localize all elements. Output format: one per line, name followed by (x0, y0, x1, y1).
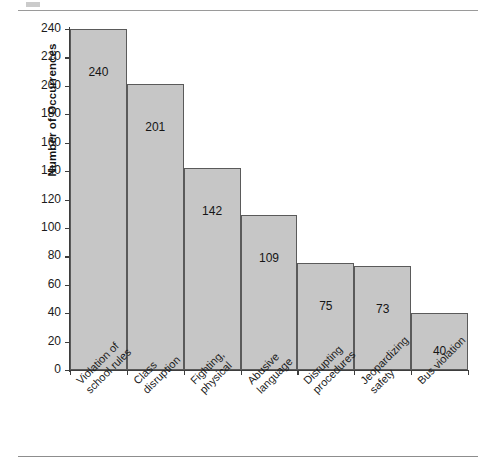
bar-value-label: 73 (354, 302, 411, 316)
bar-value-label: 142 (184, 204, 241, 218)
y-tick-mark (65, 313, 70, 314)
x-tick-mark (411, 370, 412, 375)
x-tick-mark (297, 370, 298, 375)
y-tick-mark (65, 370, 70, 371)
x-tick-mark (70, 370, 71, 375)
y-tick-label: 60 (48, 277, 61, 291)
bar (70, 29, 127, 370)
y-tick-mark (65, 143, 70, 144)
y-tick-mark (65, 171, 70, 172)
y-tick-label: 120 (41, 192, 61, 206)
y-tick-mark (65, 256, 70, 257)
y-tick-label: 0 (54, 362, 61, 376)
bar-value-label: 75 (297, 299, 354, 313)
y-tick-label: 40 (48, 305, 61, 319)
bar (184, 168, 241, 370)
y-tick-label: 140 (41, 163, 61, 177)
y-tick-mark (65, 86, 70, 87)
y-tick-mark (65, 29, 70, 30)
y-tick-mark (65, 228, 70, 229)
y-tick-mark (65, 342, 70, 343)
y-tick-mark (65, 285, 70, 286)
bar (241, 215, 298, 370)
y-tick-label: 220 (41, 49, 61, 63)
x-tick-mark (127, 370, 128, 375)
x-tick-mark (241, 370, 242, 375)
scanned-page: Number of Occurrences 020406080100120140… (0, 0, 492, 469)
y-tick-label: 240 (41, 21, 61, 35)
y-tick-mark (65, 57, 70, 58)
y-tick-label: 100 (41, 220, 61, 234)
x-tick-mark (354, 370, 355, 375)
x-tick-mark (184, 370, 185, 375)
bar-value-label: 201 (127, 120, 184, 134)
bar-value-label: 240 (70, 65, 127, 79)
y-tick-label: 160 (41, 135, 61, 149)
y-tick-label: 200 (41, 78, 61, 92)
y-tick-mark (65, 114, 70, 115)
x-tick-mark (468, 370, 469, 375)
y-tick-label: 20 (48, 334, 61, 348)
bar-chart: Number of Occurrences 020406080100120140… (0, 0, 492, 469)
y-tick-label: 80 (48, 248, 61, 262)
y-tick-mark (65, 200, 70, 201)
y-tick-label: 180 (41, 106, 61, 120)
bar-value-label: 109 (241, 251, 298, 265)
